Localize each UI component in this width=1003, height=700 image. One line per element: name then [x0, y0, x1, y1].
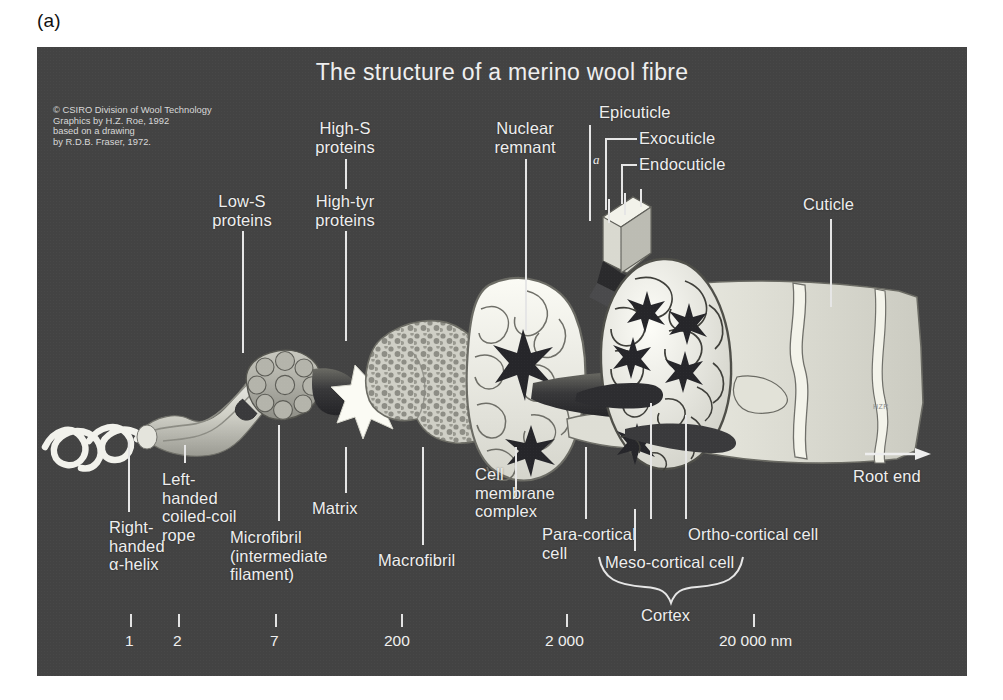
label-meso-cortical-cell: Meso-cortical cell: [605, 553, 734, 572]
root-end-arrow-icon: [863, 445, 933, 463]
label-low-s-proteins: Low-S proteins: [187, 192, 297, 229]
scale-label: 200: [384, 632, 410, 650]
leader-high-tyr: [345, 231, 347, 341]
leader-epicuticle: [589, 125, 591, 221]
artist-signature: HZR: [873, 403, 889, 410]
scale-tick: [566, 614, 568, 627]
scale-label: 1: [125, 632, 134, 650]
label-epicuticle: Epicuticle: [599, 103, 671, 122]
leader-endocuticle: [621, 164, 623, 204]
scale-label: 2 000: [545, 632, 584, 650]
label-cortex: Cortex: [641, 606, 690, 625]
leader-para-cortical-cell: [585, 447, 587, 519]
label-macrofibril: Macrofibril: [378, 551, 455, 570]
leader-endocuticle-h: [621, 164, 637, 166]
scale-label: 2: [173, 632, 182, 650]
figure-root: (a): [0, 0, 1003, 700]
label-high-tyr-proteins: High-tyr proteins: [290, 192, 400, 229]
label-microfibril: Microfibril (intermediate filament): [230, 528, 328, 584]
leader-macrofibril: [422, 447, 424, 545]
credit-text: © CSIRO Division of Wool Technology Grap…: [53, 105, 212, 147]
leader-exocuticle: [605, 138, 607, 210]
label-cell-membrane-complex: Cell membrane complex: [475, 465, 555, 521]
label-left-handed-coiled-coil-rope: Left- handed coiled-coil rope: [162, 470, 236, 544]
wool-fibre-cuticle-art: [575, 259, 923, 471]
leader-cuticle: [830, 219, 832, 307]
scale-tick: [275, 614, 277, 627]
leader-nuclear-remnant: [525, 159, 527, 331]
leader-high-s: [345, 159, 347, 189]
leader-microfibril: [278, 425, 280, 521]
figure-title: The structure of a merino wool fibre: [37, 59, 967, 86]
leader-ortho-cortical-cell-2: [685, 415, 687, 519]
label-high-s-proteins: High-S proteins: [290, 119, 400, 156]
label-root-end: Root end: [853, 467, 921, 486]
label-right-handed-alpha-helix: Right- handed α-helix: [109, 518, 165, 574]
scale-tick: [178, 614, 180, 627]
leader-left-handed-rope: [184, 445, 186, 463]
label-matrix: Matrix: [312, 499, 358, 518]
scale-tick: [130, 614, 132, 627]
label-a-marker: a: [593, 152, 600, 168]
scale-label: 20 000 nm: [719, 632, 792, 650]
leader-meso-cortical-cell: [634, 509, 636, 551]
scale-tick: [401, 614, 403, 627]
scale-label: 7: [270, 632, 279, 650]
label-ortho-cortical-cell: Ortho-cortical cell: [688, 525, 818, 544]
label-exocuticle: Exocuticle: [639, 129, 715, 148]
leader-exocuticle-h: [605, 138, 637, 140]
leader-ortho-cortical-cell: [650, 403, 652, 519]
panel-label: (a): [37, 10, 61, 32]
label-endocuticle: Endocuticle: [639, 155, 725, 174]
scale-tick: [753, 614, 755, 627]
diagram-panel: The structure of a merino wool fibre © C…: [37, 47, 967, 676]
leader-matrix: [345, 447, 347, 493]
leader-low-s: [242, 231, 244, 353]
label-nuclear-remnant: Nuclear remnant: [465, 119, 585, 156]
leader-right-handed-helix: [128, 440, 130, 512]
label-cuticle: Cuticle: [803, 195, 854, 214]
